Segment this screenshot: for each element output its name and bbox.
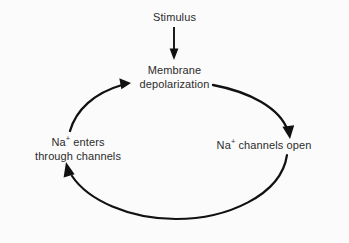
- through-channels-text: through channels: [8, 150, 148, 164]
- diagram-canvas: Stimulus Membrane depolarization Na+ cha…: [0, 0, 349, 243]
- arrow-channels-open-to-na-enters: [64, 155, 287, 219]
- arrow-stimulus-to-depolarization: [170, 27, 179, 60]
- node-label-membrane-depolarization: Membrane depolarization: [0, 64, 349, 91]
- stimulus-text: Stimulus: [0, 11, 349, 25]
- na-enters-text: Na+ enters: [8, 136, 148, 150]
- diagram-arrows-layer: [0, 0, 349, 243]
- depolarization-text: depolarization: [0, 78, 349, 92]
- enters-text: enters: [70, 136, 104, 148]
- na-channels-open-text: Na+ channels open: [188, 139, 340, 153]
- node-label-na-enters-through-channels: Na+ enters through channels: [8, 136, 148, 163]
- na-symbol: Na: [51, 136, 65, 148]
- arrow-depolarization-to-channels-open: [213, 85, 294, 139]
- channels-open-text: channels open: [235, 139, 311, 151]
- membrane-text: Membrane: [0, 64, 349, 78]
- na-symbol: Na: [217, 139, 231, 151]
- node-label-na-channels-open: Na+ channels open: [188, 139, 340, 153]
- node-label-stimulus: Stimulus: [0, 11, 349, 25]
